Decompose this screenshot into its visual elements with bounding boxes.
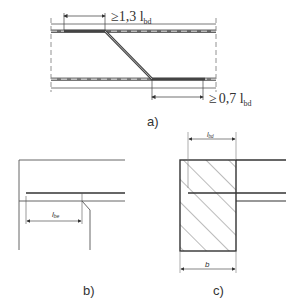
panel-c-support-detail (180, 132, 286, 273)
panel-b-dimension-label: lbe (52, 210, 60, 219)
panel-b-corner-detail (19, 160, 125, 250)
top-anchorage-length-label: ≥1,3 lbd (111, 9, 152, 26)
reinforcement-detail-figure: ≥1,3 lbd ≥0,7 lbd lbe (0, 0, 300, 308)
panel-a-beam (51, 13, 216, 100)
panel-c-width-label: b (205, 260, 210, 269)
caption-c: c) (213, 283, 224, 298)
caption-a: a) (147, 114, 159, 129)
caption-b: b) (83, 283, 95, 298)
bottom-anchorage-length-label: ≥0,7 lbd (209, 91, 252, 108)
panel-c-anchorage-label: lbd (207, 131, 214, 139)
